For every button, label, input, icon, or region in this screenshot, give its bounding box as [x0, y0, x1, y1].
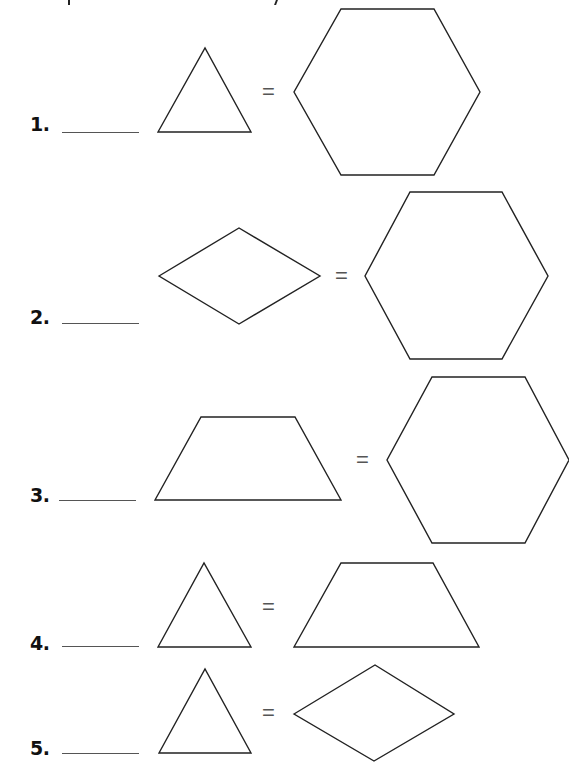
- hexagon-shape-1: [294, 9, 480, 175]
- trapezoid-shape-3: [155, 417, 341, 500]
- triangle-shape-5: [159, 669, 251, 753]
- rhombus-shape-5: [294, 665, 454, 761]
- triangle-shape-4: [158, 563, 251, 647]
- hexagon-shape-2: [365, 192, 548, 359]
- rhombus-shape-2: [159, 228, 320, 324]
- hexagon-shape-3: [387, 377, 569, 543]
- triangle-shape-1: [158, 48, 251, 132]
- trapezoid-shape-4: [294, 563, 479, 647]
